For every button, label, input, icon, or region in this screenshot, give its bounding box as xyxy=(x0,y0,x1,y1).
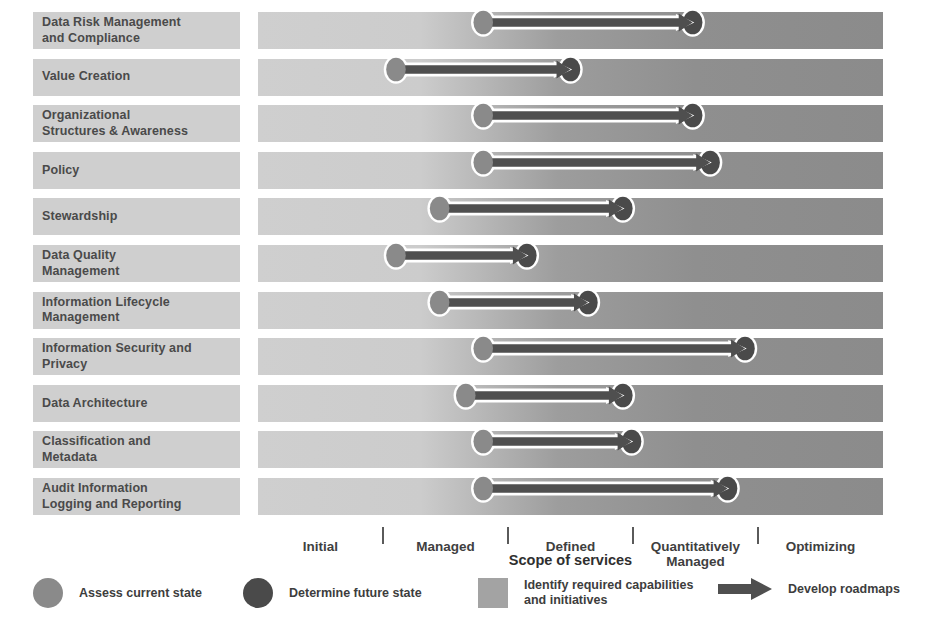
row-markers xyxy=(258,237,883,274)
row-label-2: OrganizationalStructures & Awareness xyxy=(33,105,240,142)
current-state-marker xyxy=(473,11,493,35)
maturity-row: Policy xyxy=(0,152,942,189)
legend-label: Determine future state xyxy=(289,586,422,601)
row-markers xyxy=(258,190,883,227)
row-label-line: Privacy xyxy=(42,357,231,373)
legend-label: Develop roadmaps xyxy=(788,582,900,597)
legend-label: Assess current state xyxy=(79,586,202,601)
row-label-4: Stewardship xyxy=(33,198,240,235)
row-label-1: Value Creation xyxy=(33,59,240,96)
maturity-row: Classification andMetadata xyxy=(0,431,942,468)
row-label-line: Classification and xyxy=(42,434,231,450)
current-state-marker xyxy=(456,383,476,407)
current-state-marker xyxy=(473,477,493,501)
row-label-line: Data Risk Management xyxy=(42,15,231,31)
row-markers xyxy=(258,4,883,41)
row-label-9: Classification andMetadata xyxy=(33,431,240,468)
row-label-line: and Compliance xyxy=(42,31,231,47)
maturity-rows-area: Data Risk Managementand ComplianceValue … xyxy=(0,12,942,527)
legend-item-3: Develop roadmaps xyxy=(718,578,900,600)
legend-label-line: Develop roadmaps xyxy=(788,582,900,597)
row-label-line: Management xyxy=(42,264,231,280)
row-label-0: Data Risk Managementand Compliance xyxy=(33,12,240,49)
x-axis-title: Scope of services xyxy=(258,551,883,569)
legend-current-state-circle-icon xyxy=(33,578,63,608)
axis-tick-1 xyxy=(507,527,509,544)
legend-capabilities-square-icon xyxy=(478,578,508,608)
current-state-marker xyxy=(473,150,493,174)
x-axis-title-label: Scope of services xyxy=(509,552,632,568)
row-label-line: Data Quality xyxy=(42,248,231,264)
maturity-row: Information Security andPrivacy xyxy=(0,338,942,375)
row-label-7: Information Security andPrivacy xyxy=(33,338,240,375)
row-label-line: Structures & Awareness xyxy=(42,124,231,140)
current-state-marker xyxy=(386,57,406,81)
maturity-row: Value Creation xyxy=(0,59,942,96)
legend-label-line: Determine future state xyxy=(289,586,422,601)
row-markers xyxy=(258,144,883,181)
legend-roadmap-arrow-icon xyxy=(718,578,772,600)
chart-legend: Assess current stateDetermine future sta… xyxy=(0,578,942,638)
legend-item-1: Determine future state xyxy=(243,578,422,608)
current-state-marker xyxy=(386,244,406,268)
row-label-line: Management xyxy=(42,310,231,326)
row-label-line: Stewardship xyxy=(42,209,231,225)
row-markers xyxy=(258,284,883,321)
row-label-8: Data Architecture xyxy=(33,385,240,422)
row-label-6: Information LifecycleManagement xyxy=(33,292,240,329)
maturity-row: Data QualityManagement xyxy=(0,245,942,282)
maturity-row: Audit InformationLogging and Reporting xyxy=(0,478,942,515)
row-label-line: Policy xyxy=(42,163,231,179)
row-label-3: Policy xyxy=(33,152,240,189)
legend-item-2: Identify required capabilitiesand initia… xyxy=(478,578,694,608)
maturity-row: Information LifecycleManagement xyxy=(0,292,942,329)
legend-label-line: Identify required capabilities xyxy=(524,578,694,593)
current-state-marker xyxy=(473,430,493,454)
row-markers xyxy=(258,470,883,507)
legend-label: Identify required capabilitiesand initia… xyxy=(524,578,694,608)
row-label-line: Metadata xyxy=(42,450,231,466)
axis-tick-3 xyxy=(757,527,759,544)
row-label-5: Data QualityManagement xyxy=(33,245,240,282)
current-state-marker xyxy=(473,104,493,128)
row-label-line: Data Architecture xyxy=(42,396,231,412)
legend-label-line: Assess current state xyxy=(79,586,202,601)
row-markers xyxy=(258,330,883,367)
row-label-line: Value Creation xyxy=(42,69,231,85)
row-markers xyxy=(258,51,883,88)
row-markers xyxy=(258,97,883,134)
row-label-line: Audit Information xyxy=(42,481,231,497)
axis-tick-0 xyxy=(382,527,384,544)
maturity-row: Data Architecture xyxy=(0,385,942,422)
maturity-roadmap-chart: Data Risk Managementand ComplianceValue … xyxy=(0,0,942,641)
legend-future-state-circle-icon xyxy=(243,578,273,608)
current-state-marker xyxy=(430,290,450,314)
axis-tick-2 xyxy=(632,527,634,544)
row-label-10: Audit InformationLogging and Reporting xyxy=(33,478,240,515)
row-markers xyxy=(258,377,883,414)
current-state-marker xyxy=(430,197,450,221)
row-label-line: Organizational xyxy=(42,108,231,124)
maturity-row: Data Risk Managementand Compliance xyxy=(0,12,942,49)
maturity-row: Stewardship xyxy=(0,198,942,235)
row-markers xyxy=(258,423,883,460)
current-state-marker xyxy=(473,337,493,361)
legend-label-line: and initiatives xyxy=(524,593,694,608)
row-label-line: Information Lifecycle xyxy=(42,295,231,311)
maturity-row: OrganizationalStructures & Awareness xyxy=(0,105,942,142)
row-label-line: Information Security and xyxy=(42,341,231,357)
row-label-line: Logging and Reporting xyxy=(42,497,231,513)
legend-item-0: Assess current state xyxy=(33,578,202,608)
